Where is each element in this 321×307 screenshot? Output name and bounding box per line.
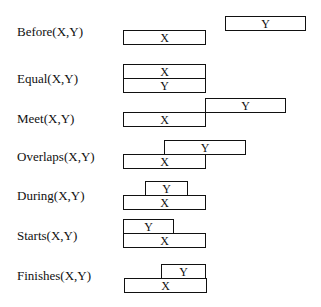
- interval-x-box: X: [123, 64, 206, 79]
- interval-name: Y: [226, 17, 305, 30]
- interval-name: Y: [124, 220, 173, 233]
- interval-name: X: [124, 31, 205, 44]
- interval-name: Y: [162, 265, 205, 278]
- interval-y-box: Y: [145, 181, 188, 196]
- interval-x-box: X: [123, 195, 206, 210]
- interval-y-box: Y: [205, 98, 286, 113]
- relation-label: Before(X,Y): [17, 24, 83, 40]
- interval-name: X: [124, 155, 205, 168]
- relation-label: Equal(X,Y): [17, 71, 78, 87]
- interval-x-box: X: [124, 278, 207, 293]
- interval-name: X: [124, 196, 205, 209]
- interval-name: Y: [146, 182, 187, 195]
- interval-y-box: Y: [123, 219, 174, 234]
- relation-label: Overlaps(X,Y): [17, 149, 95, 165]
- relation-label: Meet(X,Y): [17, 111, 74, 127]
- interval-name: X: [124, 113, 205, 126]
- interval-x-box: X: [123, 154, 206, 169]
- interval-x-box: X: [123, 112, 206, 127]
- interval-y-box: Y: [161, 264, 206, 279]
- interval-x-box: X: [123, 233, 206, 248]
- interval-name: Y: [124, 79, 205, 92]
- interval-name: X: [124, 65, 205, 78]
- interval-name: X: [125, 279, 206, 292]
- relation-label: Starts(X,Y): [17, 228, 77, 244]
- relation-label: Finishes(X,Y): [17, 268, 91, 284]
- interval-y-box: Y: [225, 16, 306, 31]
- interval-name: Y: [206, 99, 285, 112]
- interval-name: X: [124, 234, 205, 247]
- interval-x-box: X: [123, 30, 206, 45]
- interval-name: Y: [165, 141, 245, 154]
- interval-y-box: Y: [164, 140, 246, 155]
- interval-y-box: Y: [123, 78, 206, 93]
- relation-label: During(X,Y): [17, 188, 85, 204]
